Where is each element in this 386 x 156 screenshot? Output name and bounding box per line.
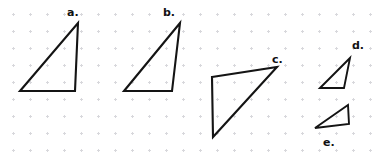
triangle-c xyxy=(212,67,277,137)
label-d: d. xyxy=(352,40,364,51)
triangle-a xyxy=(20,23,78,91)
label-c: c. xyxy=(272,54,283,65)
triangle-b xyxy=(124,23,180,91)
triangle-d xyxy=(320,58,350,88)
triangle-canvas xyxy=(0,0,386,156)
triangle-figure: a. b. c. d. e. xyxy=(0,0,386,156)
label-a: a. xyxy=(67,7,79,18)
label-b: b. xyxy=(163,7,175,18)
label-e: e. xyxy=(323,137,335,148)
triangle-e xyxy=(315,105,349,128)
